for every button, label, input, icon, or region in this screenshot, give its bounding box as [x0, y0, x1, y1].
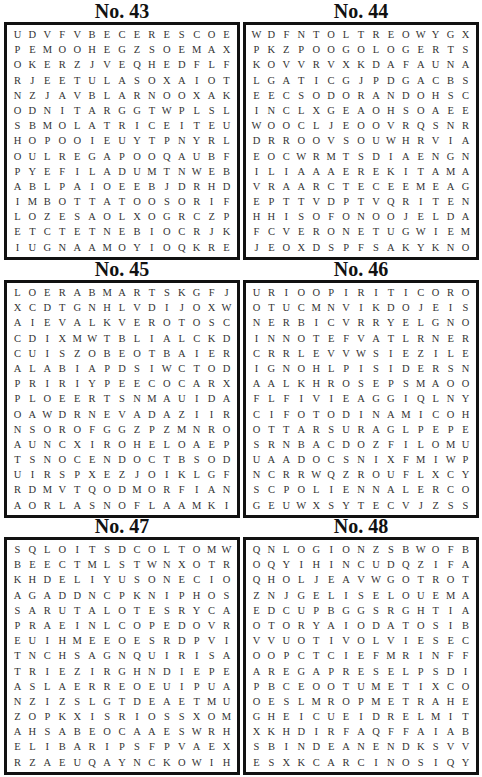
grid-letter: E — [398, 709, 413, 724]
grid-letter: R — [264, 285, 279, 300]
grid-letter: P — [10, 391, 25, 406]
grid-letter: I — [129, 709, 144, 724]
letter-grid: LOERABMARTSKGFJXCDTGNHLVDIJOXWAIEVALKVER… — [4, 280, 240, 518]
grid-letter: S — [40, 724, 55, 739]
grid-letter: L — [25, 739, 40, 754]
grid-letter: A — [85, 209, 100, 224]
grid-letter: L — [413, 467, 428, 482]
grid-letter: A — [115, 88, 130, 103]
grid-letter: C — [294, 300, 309, 315]
grid-letter: N — [279, 361, 294, 376]
grid-letter: Q — [324, 467, 339, 482]
grid-letter: U — [249, 452, 264, 467]
grid-letter: V — [115, 315, 130, 330]
grid-letter: P — [55, 179, 70, 194]
grid-letter: N — [189, 422, 204, 437]
grid-letter: Q — [129, 57, 144, 72]
grid-letter: L — [40, 179, 55, 194]
grid-letter: H — [55, 648, 70, 663]
grid-letter: E — [219, 27, 234, 42]
grid-letter: O — [174, 755, 189, 770]
grid-letter: C — [204, 603, 219, 618]
grid-letter: M — [189, 42, 204, 57]
grid-letter: I — [219, 498, 234, 513]
grid-letter: E — [204, 346, 219, 361]
grid-letter: A — [428, 694, 443, 709]
grid-letter: T — [25, 224, 40, 239]
grid-letter: E — [40, 73, 55, 88]
grid-letter: O — [189, 618, 204, 633]
grid-letter: I — [174, 679, 189, 694]
letter-grid: UDVFVBECERESCOEPEMOOHEGZSOEMAXOKERZJVEQH… — [4, 22, 240, 260]
grid-letter: X — [189, 88, 204, 103]
grid-letter: I — [55, 103, 70, 118]
grid-letter: I — [40, 376, 55, 391]
grid-letter: I — [174, 118, 189, 133]
grid-letter: O — [249, 557, 264, 572]
grid-letter: N — [115, 648, 130, 663]
grid-letter: U — [115, 133, 130, 148]
grid-letter: B — [294, 315, 309, 330]
grid-letter: V — [249, 179, 264, 194]
grid-letter: O — [159, 88, 174, 103]
grid-letter: T — [309, 407, 324, 422]
grid-letter: O — [368, 209, 383, 224]
grid-letter: I — [428, 755, 443, 770]
grid-letter: Q — [413, 118, 428, 133]
grid-letter: U — [70, 755, 85, 770]
grid-letter: J — [204, 224, 219, 239]
grid-letter: G — [428, 315, 443, 330]
grid-letter: B — [159, 346, 174, 361]
grid-letter: C — [55, 557, 70, 572]
grid-letter: C — [115, 618, 130, 633]
grid-letter: L — [368, 42, 383, 57]
grid-letter: I — [159, 300, 174, 315]
grid-letter: M — [458, 224, 473, 239]
grid-letter: L — [189, 103, 204, 118]
grid-letter: R — [354, 164, 369, 179]
grid-letter: D — [144, 407, 159, 422]
grid-letter: S — [354, 149, 369, 164]
grid-letter: R — [309, 179, 324, 194]
grid-letter: E — [100, 407, 115, 422]
grid-letter: E — [189, 664, 204, 679]
grid-letter: Z — [129, 422, 144, 437]
grid-letter: B — [264, 739, 279, 754]
grid-letter: X — [219, 42, 234, 57]
grid-letter: A — [129, 724, 144, 739]
grid-letter: G — [398, 73, 413, 88]
grid-letter: E — [40, 315, 55, 330]
grid-letter: L — [443, 346, 458, 361]
grid-letter: I — [204, 194, 219, 209]
grid-letter: M — [40, 482, 55, 497]
grid-letter: N — [264, 542, 279, 557]
grid-letter: A — [309, 664, 324, 679]
grid-letter: T — [144, 346, 159, 361]
grid-letter: E — [249, 149, 264, 164]
grid-letter: T — [10, 664, 25, 679]
grid-letter: S — [428, 618, 443, 633]
grid-letter: G — [189, 285, 204, 300]
grid-letter: E — [428, 422, 443, 437]
grid-letter: T — [189, 118, 204, 133]
grid-letter: C — [279, 88, 294, 103]
grid-letter: L — [294, 103, 309, 118]
grid-letter: A — [174, 346, 189, 361]
grid-letter: I — [249, 103, 264, 118]
grid-letter: O — [279, 118, 294, 133]
grid-letter: A — [383, 407, 398, 422]
grid-letter: U — [189, 149, 204, 164]
grid-letter: V — [458, 739, 473, 754]
grid-letter: G — [249, 709, 264, 724]
grid-letter: W — [443, 452, 458, 467]
grid-letter: L — [428, 391, 443, 406]
grid-letter: Y — [309, 618, 324, 633]
grid-letter: T — [100, 391, 115, 406]
grid-letter: O — [159, 315, 174, 330]
grid-letter: Q — [25, 542, 40, 557]
grid-letter: A — [55, 679, 70, 694]
grid-letter: R — [354, 88, 369, 103]
grid-letter: E — [55, 664, 70, 679]
grid-letter: I — [129, 118, 144, 133]
grid-letter: O — [204, 709, 219, 724]
